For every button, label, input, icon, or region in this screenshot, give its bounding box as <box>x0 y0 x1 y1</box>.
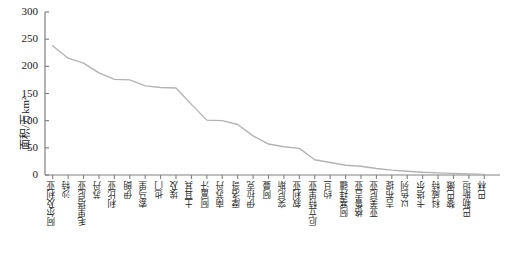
area-line-chart: 面积/万km² 050100150200250300 阿尔及利亚沙特毛里塔尼亚苏… <box>0 0 505 253</box>
x-axis-ticks <box>53 175 485 179</box>
axis-lines <box>45 12 500 175</box>
plot-area <box>0 0 505 253</box>
data-series-line <box>53 46 485 175</box>
